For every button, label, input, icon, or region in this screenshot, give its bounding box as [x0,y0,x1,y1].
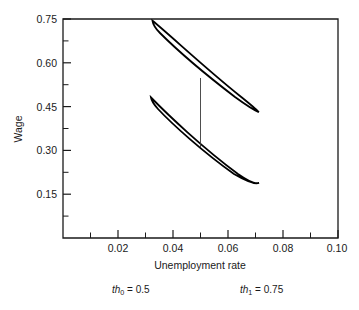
x-axis-title: Unemployment rate [154,259,246,271]
caption-th1-value: = 0.75 [252,284,283,295]
y-tick-label-075: 0.75 [37,13,58,25]
y-tick-label-045: 0.45 [37,101,58,113]
x-tick-label-010: 0.10 [327,242,348,254]
x-tick-label-006: 0.06 [218,242,239,254]
y-tick-label-030: 0.30 [37,144,58,156]
x-tick-label-008: 0.08 [273,242,294,254]
chart-figure: 0.75 0.60 0.45 0.30 0.15 Wage 0.02 0 [0,0,359,310]
y-tick-label-015: 0.15 [37,188,58,200]
y-tick-label-060: 0.60 [37,57,58,69]
x-tick-label-004: 0.04 [163,242,184,254]
caption-th0-value: = 0.5 [124,284,150,295]
wage-unemployment-phase-plot: 0.75 0.60 0.45 0.30 0.15 Wage 0.02 0 [0,0,359,310]
x-tick-label-002: 0.02 [108,242,129,254]
y-axis-title: Wage [12,115,24,142]
